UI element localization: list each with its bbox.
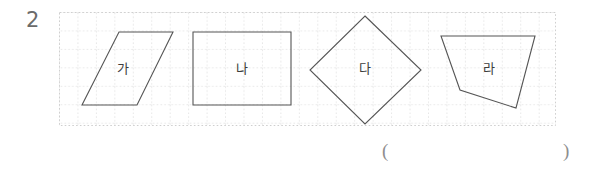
- figure-label-na: 나: [236, 62, 248, 75]
- grid-lines: [59, 12, 556, 126]
- answer-open-paren: (: [382, 141, 388, 160]
- problem-number: 2: [26, 10, 39, 31]
- grid-panel: [59, 12, 556, 126]
- figure-label-ra: 라: [483, 62, 495, 75]
- figure-label-ga: 가: [117, 62, 129, 75]
- answer-close-paren: ): [563, 141, 569, 160]
- figure-label-da: 다: [359, 62, 371, 75]
